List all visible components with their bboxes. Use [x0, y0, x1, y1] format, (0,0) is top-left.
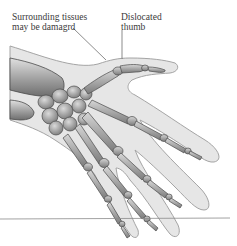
leader-lines	[73, 28, 122, 60]
thumb-label-line2: thumb	[121, 22, 162, 32]
tissues-label-line1: Surrounding tissues	[12, 12, 87, 22]
tissues-label-line2: may be damagrd	[12, 22, 87, 32]
hand-skeleton-illustration	[0, 0, 237, 246]
horizontal-rule	[0, 218, 230, 219]
dislocated-thumb-label: Dislocated thumb	[121, 12, 162, 32]
tissues-leader-line	[73, 28, 106, 60]
tissues-damage-label: Surrounding tissues may be damagrd	[12, 12, 87, 32]
thumb-label-line1: Dislocated	[121, 12, 162, 22]
